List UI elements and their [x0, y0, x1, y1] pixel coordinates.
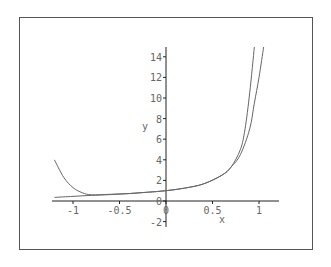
y-tick-label: 14 — [150, 52, 162, 63]
y-tick-label: 4 — [156, 155, 162, 166]
y-tick-label: 0 — [156, 196, 162, 207]
chart-canvas: -1-0.500.51-202468101214 x y — [0, 0, 331, 267]
curve-1 — [54, 47, 254, 195]
x-tick-label: -1 — [67, 205, 79, 216]
axes: -1-0.500.51-202468101214 — [52, 47, 279, 228]
x-tick-label: -0.5 — [107, 205, 131, 216]
y-tick-label: 8 — [156, 114, 162, 125]
x-tick-label: 0 — [163, 205, 169, 216]
y-tick-label: 10 — [150, 93, 162, 104]
y-tick-label: -2 — [150, 217, 162, 228]
y-tick-label: 12 — [150, 72, 162, 83]
y-axis-label: y — [142, 121, 148, 132]
y-tick-label: 2 — [156, 175, 162, 186]
x-axis-label: x — [219, 214, 225, 225]
x-tick-label: 1 — [256, 205, 262, 216]
y-tick-label: 6 — [156, 134, 162, 145]
